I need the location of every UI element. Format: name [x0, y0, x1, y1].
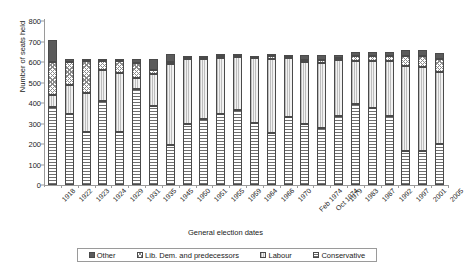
x-axis-tick-mark [364, 185, 365, 188]
bar-segment-other [351, 52, 360, 56]
y-axis-tick-mark [41, 41, 44, 42]
bar-segment-other [284, 55, 293, 57]
y-axis-tick-label: 100 [28, 160, 41, 169]
bar-1959 [233, 56, 242, 185]
x-axis-tick-label: 2001 [431, 187, 447, 203]
bar-segment-other [418, 50, 427, 56]
bar-segment-libdem [48, 62, 57, 95]
x-axis-tick-mark [111, 185, 112, 188]
x-axis-tick-label: 1955 [229, 187, 245, 203]
bar-segment-conservative [199, 119, 208, 185]
y-axis-tick-label: 600 [28, 58, 41, 67]
bar-segment-conservative [149, 106, 158, 185]
bar-segment-conservative [368, 108, 377, 185]
bar-segment-labour [132, 78, 141, 89]
bar-segment-libdem [435, 59, 444, 72]
bar-segment-labour [385, 61, 394, 117]
bar-1918 [48, 40, 57, 185]
y-axis-tick-mark [41, 123, 44, 124]
bar-segment-conservative [351, 104, 360, 185]
x-axis-tick-mark [414, 185, 415, 188]
bar-1983 [351, 52, 360, 185]
bar-segment-labour [300, 62, 309, 124]
bar-segment-other [82, 59, 91, 61]
bar-segment-conservative [115, 132, 124, 185]
y-axis-tick-mark [41, 103, 44, 104]
legend-item-other: Other [89, 251, 116, 260]
x-axis-tick-mark [162, 185, 163, 188]
bar-feb-1974 [300, 55, 309, 185]
x-axis-tick-mark [280, 185, 281, 188]
bar-segment-other [267, 54, 276, 56]
bar-segment-labour [351, 61, 360, 104]
bar-segment-other [368, 52, 377, 57]
x-axis-tick-mark [448, 185, 449, 188]
x-axis-tick-label: 1983 [364, 187, 380, 203]
x-axis-tick-label: 1931 [145, 187, 161, 203]
bar-2005 [435, 53, 444, 185]
x-axis-tick-label: 1951 [212, 187, 228, 203]
x-axis-tick-mark [128, 185, 129, 188]
x-axis-tick-mark [330, 185, 331, 188]
bar-segment-other [149, 59, 158, 70]
bar-segment-libdem [368, 56, 377, 61]
y-axis-tick-label: 0 [37, 181, 41, 190]
bar-segment-labour [149, 74, 158, 106]
bar-segment-labour [82, 93, 91, 132]
bar-segment-labour [166, 64, 175, 145]
y-axis-tick-mark [41, 62, 44, 63]
bar-segment-conservative [418, 151, 427, 185]
bar-segment-labour [250, 58, 259, 123]
bar-segment-libdem [351, 56, 360, 61]
bar-segment-labour [183, 59, 192, 124]
bar-segment-labour [267, 59, 276, 134]
legend-item-conservative: Conservative [313, 251, 365, 260]
x-axis-tick-mark [95, 185, 96, 188]
bar-1970 [284, 56, 293, 185]
bar-segment-conservative [385, 116, 394, 185]
x-axis-tick-mark [398, 185, 399, 188]
bar-segment-other [115, 59, 124, 61]
legend-swatch-conservative-icon [313, 252, 319, 258]
x-axis-tick-mark [431, 185, 432, 188]
y-axis-tick-label: 700 [28, 37, 41, 46]
y-axis-tick-label: 200 [28, 140, 41, 149]
chart-legend: OtherLib. Dem. and predecessorsLabourCon… [77, 248, 377, 262]
x-axis-tick-label: 1987 [381, 187, 397, 203]
bar-segment-libdem [385, 56, 394, 60]
bar-segment-other [435, 53, 444, 59]
bar-segment-libdem [149, 70, 158, 74]
x-axis-tick-mark [313, 185, 314, 188]
bar-segment-labour [98, 70, 107, 101]
x-axis-tick-label: 1964 [263, 187, 279, 203]
bar-1931 [132, 59, 141, 185]
y-axis-tick-mark [41, 82, 44, 83]
legend-swatch-libdem-icon [137, 252, 143, 258]
x-axis-tick-label: 1979 [347, 187, 363, 203]
x-axis-tick-label: 1997 [414, 187, 430, 203]
x-axis-tick-mark [381, 185, 382, 188]
x-axis-tick-label: 1959 [246, 187, 262, 203]
bar-segment-libdem [82, 61, 91, 93]
bar-1945 [166, 54, 175, 185]
bar-segment-labour [115, 73, 124, 132]
bar-segment-other [216, 54, 225, 56]
bar-segment-labour [284, 58, 293, 117]
y-axis-tick-mark [41, 164, 44, 165]
x-axis-tick-mark [145, 185, 146, 188]
bar-segment-libdem [98, 61, 107, 69]
bar-segment-other [183, 56, 192, 58]
x-axis-tick-label: 1950 [196, 187, 212, 203]
bar-1955 [216, 56, 225, 185]
bar-1950 [183, 57, 192, 185]
bar-segment-conservative [250, 123, 259, 185]
y-axis-tick-mark [41, 185, 44, 186]
y-axis-tick-label: 800 [28, 17, 41, 26]
legend-swatch-labour-icon [260, 252, 266, 258]
bar-segment-other [48, 40, 57, 62]
x-axis-tick-mark [78, 185, 79, 188]
x-axis-tick-mark [196, 185, 197, 188]
bar-segment-conservative [98, 101, 107, 185]
bar-segment-conservative [334, 116, 343, 185]
bar-1924 [98, 59, 107, 185]
